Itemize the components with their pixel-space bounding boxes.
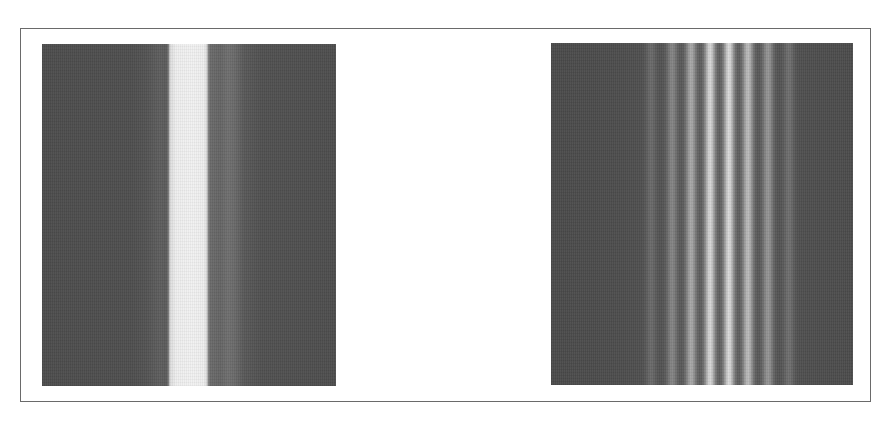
film-grain — [42, 44, 336, 386]
multi-fringe-pattern — [551, 43, 853, 385]
film-grain — [551, 43, 853, 385]
single-slit-pattern — [42, 44, 336, 386]
